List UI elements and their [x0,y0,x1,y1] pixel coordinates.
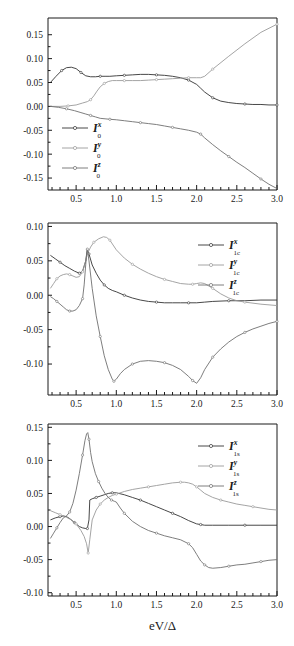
data-point-marker [155,78,157,80]
data-point-marker [139,121,141,123]
x-tick-label: 3.0 [271,399,283,409]
x-axis-title: eV/Δ [149,618,176,633]
data-point-marker [276,104,278,106]
legend-label-z: Iz0 [92,160,101,180]
data-point-marker [155,532,157,534]
legend: Ix0Iy0Iz0 [62,120,102,180]
data-point-marker [171,126,173,128]
curve-I-0-z [50,106,277,188]
data-point-marker [67,105,69,107]
data-point-marker [110,499,112,501]
data-point-marker [191,283,193,285]
y-tick-label: 0.05 [26,78,43,88]
data-point-marker [123,74,125,76]
legend-label-y: Iy0 [92,140,102,160]
x-tick-label: 0.5 [70,399,82,409]
y-tick-label: -0.05 [23,555,43,565]
data-point-marker [81,271,83,273]
curve-I-1c-x [50,249,277,303]
chart-panel-1: -0.10-0.050.000.050.100.51.01.52.02.53.0… [0,205,294,413]
y-tick-label: -0.10 [23,150,43,160]
data-point-marker [212,356,214,358]
data-point-marker [93,241,95,243]
data-point-marker [59,261,61,263]
data-point-marker [69,511,71,513]
data-point-marker [99,335,101,337]
x-tick-label: 0.5 [70,194,82,204]
data-point-marker [276,23,278,25]
data-point-marker [131,363,133,365]
data-point-marker [220,499,222,501]
data-point-marker [171,512,173,514]
legend-marker-z [73,166,76,169]
y-tick-label: 0.15 [26,423,43,433]
curve-I-0-x [50,67,277,105]
x-tick-label: 1.5 [151,399,163,409]
data-point-marker [200,133,202,135]
data-point-marker [244,524,246,526]
data-point-marker [179,481,181,483]
data-point-marker [56,527,58,529]
y-tick-label: 0.10 [26,222,43,232]
data-point-marker [228,300,230,302]
data-point-marker [56,300,58,302]
data-point-marker [155,74,157,76]
legend-marker-z [209,283,212,286]
y-tick-label: 0.00 [26,522,43,532]
data-point-marker [113,380,115,382]
legend-marker-x [209,444,212,447]
legend-label-z: Iz1c [228,277,239,297]
y-tick-label: -0.05 [23,126,43,136]
data-point-marker [187,543,189,545]
data-point-marker [228,565,230,567]
data-point-marker [212,97,214,99]
data-point-marker [81,298,83,300]
y-tick-label: 0.00 [26,291,43,301]
data-point-marker [80,71,82,73]
data-point-marker [69,310,71,312]
curve-I-0-y [50,24,277,106]
curve-I-1s-y [50,482,277,553]
curve-I-1s-z [50,433,277,569]
data-point-marker [276,320,278,322]
data-point-marker [244,331,246,333]
legend-label-y: Iy1c [228,257,240,277]
y-tick-label: 0.10 [26,456,43,466]
chart-panel-0: -0.15-0.10-0.050.000.050.100.150.51.01.5… [0,0,294,208]
legend-label-x: Ix1s [228,438,240,458]
data-point-marker [97,480,99,482]
data-point-marker [78,272,80,274]
legend-marker-y [209,263,212,266]
data-point-marker [228,155,230,157]
y-tick-label: 0.15 [26,30,43,40]
data-point-marker [99,503,101,505]
data-point-marker [61,69,63,71]
data-point-marker [212,68,214,70]
x-tick-label: 3.0 [271,194,283,204]
x-tick-label: 2.5 [231,399,243,409]
y-tick-label: -0.15 [23,173,43,183]
y-tick-label: 0.05 [26,489,43,499]
data-point-marker [147,486,149,488]
y-tick-label: 0.05 [26,256,43,266]
data-point-marker [89,114,91,116]
x-tick-label: 2.5 [231,194,243,204]
data-point-marker [123,294,125,296]
data-point-marker [86,527,88,529]
legend-marker-z [209,484,212,487]
data-point-marker [87,552,89,554]
data-point-marker [252,506,254,508]
legend-label-x: Ix1c [228,237,240,257]
data-point-marker [163,362,165,364]
data-point-marker [187,302,189,304]
data-point-marker [81,454,83,456]
legend-label-z: Iz1s [228,478,239,498]
legend-label-x: Ix0 [92,120,102,140]
x-tick-label: 2.0 [191,399,203,409]
data-point-marker [103,284,105,286]
data-point-marker [196,486,198,488]
chart-panel-2: -0.10-0.050.000.050.100.150.51.01.52.02.… [0,410,294,646]
legend-label-y: Iy1s [228,458,240,478]
data-point-marker [155,301,157,303]
data-point-marker [95,496,97,498]
